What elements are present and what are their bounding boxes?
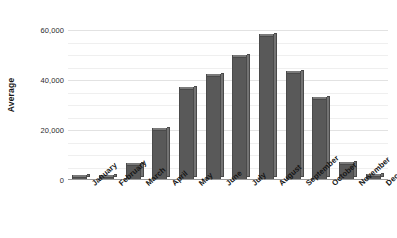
y-tick-label: 0	[60, 176, 64, 185]
y-tick-label: 40,000	[40, 76, 64, 85]
x-axis-tick-labels: JanuaryFebruaryMarchAprilMayJuneJulyAugu…	[68, 181, 388, 238]
plot-area	[68, 18, 388, 180]
bar-slot	[179, 18, 194, 180]
bar-slot	[72, 18, 87, 180]
bar-slot	[312, 18, 327, 180]
bar-side-face	[114, 174, 117, 177]
bar-may	[179, 89, 194, 180]
x-tick-label: March	[144, 181, 150, 188]
x-tick-label: August	[277, 181, 283, 188]
bar-july	[232, 57, 247, 180]
bar-side-face	[167, 127, 170, 177]
y-axis-title-label: Average	[6, 78, 16, 113]
x-tick-label: May	[197, 181, 203, 188]
bar-chart: Average 020,00040,00060,000 JanuaryFebru…	[0, 0, 397, 238]
bar-slot	[339, 18, 354, 180]
x-tick-label: September	[304, 181, 310, 188]
x-tick-label: July	[250, 181, 256, 188]
bars-layer	[68, 18, 388, 180]
bar-side-face	[221, 73, 224, 177]
bar-june	[206, 76, 221, 180]
y-tick-label: 60,000	[40, 26, 64, 35]
y-tick-label: 20,000	[40, 126, 64, 135]
bar-slot	[259, 18, 274, 180]
bar-slot	[366, 18, 381, 180]
bar-side-face	[301, 70, 304, 177]
bar-slot	[206, 18, 221, 180]
bar-side-face	[194, 86, 197, 177]
x-tick-label: February	[117, 181, 123, 188]
bar-side-face	[247, 54, 250, 177]
x-tick-label: January	[90, 181, 96, 188]
x-tick-label: April	[170, 181, 176, 188]
bar-slot	[152, 18, 167, 180]
x-tick-label: June	[224, 181, 230, 188]
bar-side-face	[381, 173, 384, 177]
bar-slot	[286, 18, 301, 180]
x-tick-label: December	[384, 181, 390, 188]
bar-slot	[99, 18, 114, 180]
y-axis-title: Average	[0, 0, 22, 190]
x-tick-label: November	[357, 181, 363, 188]
bar-slot	[126, 18, 141, 180]
bar-slot	[232, 18, 247, 180]
bar-side-face	[274, 33, 277, 177]
x-tick-label: October	[330, 181, 336, 188]
bar-side-face	[87, 174, 90, 177]
bar-august	[259, 36, 274, 180]
y-axis-tick-labels: 020,00040,00060,000	[22, 18, 68, 180]
